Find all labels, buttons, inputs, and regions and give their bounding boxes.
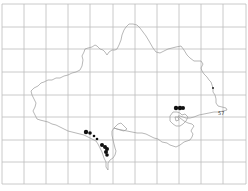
record-dots — [84, 87, 214, 157]
record-dot — [88, 131, 92, 135]
record-dot — [181, 106, 185, 110]
record-dot — [174, 106, 178, 110]
record-dot — [93, 135, 96, 138]
record-dot — [212, 87, 214, 89]
grid-lines — [2, 4, 246, 184]
distribution-map: 57 — [0, 0, 248, 191]
record-dot — [84, 130, 88, 134]
grid-label: 57 — [218, 110, 224, 116]
county-outline — [31, 24, 227, 170]
record-dot — [96, 138, 99, 141]
record-dot — [105, 153, 109, 157]
coast-detail — [114, 123, 127, 131]
map-canvas: 57 — [0, 0, 248, 191]
